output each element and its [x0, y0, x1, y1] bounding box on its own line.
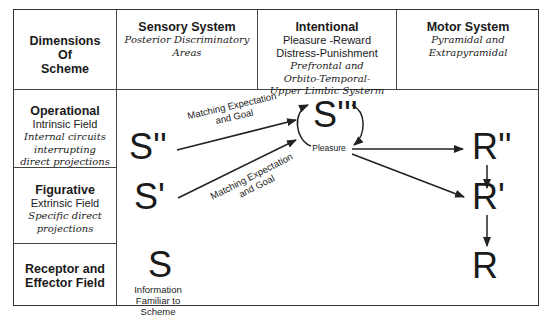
node-r-double-prime: R'': [472, 129, 512, 165]
caption-line: Scheme: [128, 306, 188, 317]
node-s: S: [148, 247, 172, 283]
arrow-pleasure-to-r-single: [352, 154, 464, 197]
node-r: R: [472, 248, 498, 284]
caption-line: Familiar to: [128, 295, 188, 306]
loop-arc-left: [297, 105, 311, 146]
label-pleasure: Pleasure: [306, 143, 352, 154]
caption-s: Information Familiar to Scheme: [128, 284, 188, 317]
node-s-triple-prime: S''': [313, 97, 358, 133]
node-r-prime: R': [472, 179, 505, 215]
node-s-prime: S': [134, 179, 165, 215]
caption-line: Information: [128, 284, 188, 295]
node-s-double-prime: S'': [129, 129, 167, 165]
